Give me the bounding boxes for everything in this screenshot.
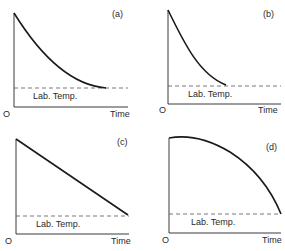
panel-label: (b): [263, 9, 274, 19]
panel-label: (d): [266, 142, 277, 152]
temperature-curve: [169, 137, 281, 214]
temperature-curve: [16, 139, 128, 215]
origin-label: O: [159, 105, 166, 115]
lab-temp-label: Lab. Temp.: [33, 91, 77, 101]
x-axis-label: Time: [111, 236, 131, 246]
temperature-curve: [14, 13, 106, 88]
lab-temp-label: Lab. Temp.: [191, 217, 235, 227]
panel-label: (a): [112, 9, 123, 19]
origin-label: O: [162, 235, 169, 245]
panel-a: Lab. Temp.TimeO(a): [3, 9, 130, 119]
x-axis-label: Time: [258, 105, 278, 115]
x-axis-label: Time: [262, 235, 282, 245]
panel-c: Lab. Temp.TimeO(c): [5, 137, 131, 246]
origin-label: O: [3, 109, 10, 119]
panel-label: (c): [117, 137, 128, 147]
panel-d: Lab. Temp.TimeO(d): [162, 137, 282, 245]
temperature-curve: [168, 10, 226, 85]
lab-temp-label: Lab. Temp.: [36, 219, 80, 229]
panel-b: Lab. Temp.TimeO(b): [159, 9, 281, 115]
lab-temp-label: Lab. Temp.: [188, 89, 232, 99]
origin-label: O: [5, 236, 12, 246]
cooling-curves-figure: Lab. Temp.TimeO(a)Lab. Temp.TimeO(b)Lab.…: [0, 0, 285, 251]
x-axis-label: Time: [110, 109, 130, 119]
